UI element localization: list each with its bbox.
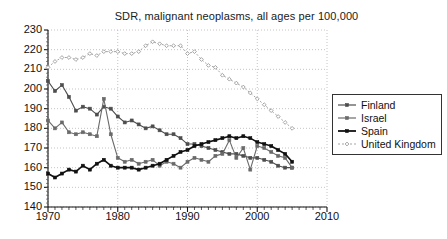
x-axis-tick-label: 2010 xyxy=(307,210,347,222)
chart-container: SDR, malignant neoplasms, all ages per 1… xyxy=(0,0,447,239)
chart-legend: FinlandIsraelSpainUnited Kingdom xyxy=(332,94,442,155)
legend-item-label: United Kingdom xyxy=(361,138,436,150)
x-axis-tick-label: 2000 xyxy=(237,210,277,222)
y-axis-tick-label: 220 xyxy=(12,43,42,55)
gridlines xyxy=(48,30,327,207)
legend-key-icon xyxy=(337,113,357,123)
y-axis-tick-label: 190 xyxy=(12,102,42,114)
x-axis-tick-label: 1970 xyxy=(28,210,68,222)
y-axis-tick-label: 180 xyxy=(12,121,42,133)
x-axis-tick-label: 1990 xyxy=(168,210,208,222)
series-lines xyxy=(46,40,294,179)
legend-item-israel[interactable]: Israel xyxy=(337,111,437,124)
y-axis-tick-label: 230 xyxy=(12,23,42,35)
legend-item-united-kingdom[interactable]: United Kingdom xyxy=(337,137,437,150)
y-axis-tick-label: 170 xyxy=(12,141,42,153)
legend-item-spain[interactable]: Spain xyxy=(337,124,437,137)
y-axis-tick-label: 150 xyxy=(12,180,42,192)
legend-item-finland[interactable]: Finland xyxy=(337,98,437,111)
y-axis-tick-label: 160 xyxy=(12,161,42,173)
legend-key-icon xyxy=(337,126,357,136)
legend-item-label: Israel xyxy=(361,112,387,124)
y-axis-tick-label: 210 xyxy=(12,62,42,74)
legend-item-label: Finland xyxy=(361,99,395,111)
legend-key-icon xyxy=(337,100,357,110)
x-axis-tick-label: 1980 xyxy=(98,210,138,222)
legend-item-label: Spain xyxy=(361,125,388,137)
y-axis-tick-label: 200 xyxy=(12,82,42,94)
legend-key-icon xyxy=(337,139,357,149)
